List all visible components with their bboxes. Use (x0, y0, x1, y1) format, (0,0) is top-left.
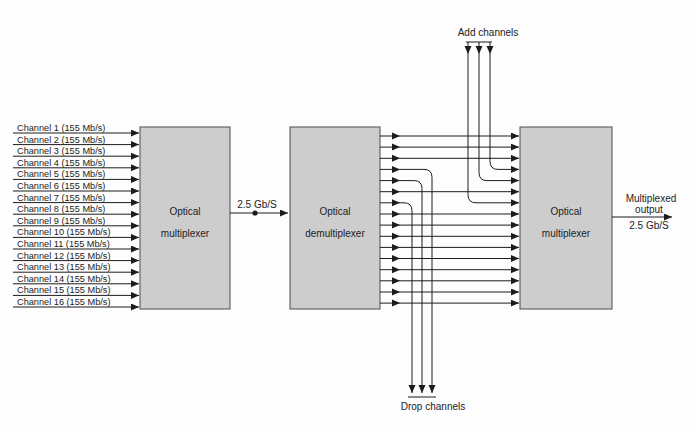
channel-inputs-group: Channel 1 (155 Mb/s)Channel 2 (155 Mb/s)… (13, 123, 139, 307)
optical-demultiplexer-box (290, 127, 380, 309)
channel-input-label-6: Channel 6 (155 Mb/s) (17, 181, 105, 191)
wavelength-rows-group (380, 42, 519, 393)
multiplexed-output-bitrate-label: 2.5 Gb/S (629, 220, 669, 231)
channel-input-label-12: Channel 12 (155 Mb/s) (17, 251, 110, 261)
demux-label-line2: demultiplexer (305, 228, 365, 239)
mid-link-dot (252, 210, 257, 215)
multiplexed-output-label-line2: output (635, 204, 663, 215)
mid-link-bitrate-label: 2.5 Gb/S (237, 199, 277, 210)
optical-multiplexer-left-box (140, 127, 230, 309)
wdm-diagram: Optical multiplexer Optical demultiplexe… (0, 0, 694, 431)
channel-input-label-10: Channel 10 (155 Mb/s) (17, 227, 110, 237)
drop-channel-line-7 (380, 203, 412, 393)
add-channel-arrow-5 (476, 46, 483, 54)
channel-input-label-13: Channel 13 (155 Mb/s) (17, 262, 110, 272)
optical-multiplexer-right-box (520, 127, 612, 309)
add-channel-line-5 (479, 42, 519, 181)
left-mux-label-line1: Optical (169, 206, 200, 217)
channel-input-label-7: Channel 7 (155 Mb/s) (17, 193, 105, 203)
channel-input-label-5: Channel 5 (155 Mb/s) (17, 169, 105, 179)
add-channel-arrow-7 (465, 46, 472, 54)
demux-label-line1: Optical (319, 206, 350, 217)
right-mux-label-line1: Optical (550, 206, 581, 217)
add-channel-line-7 (468, 42, 519, 203)
left-mux-label-line2: multiplexer (161, 228, 210, 239)
channel-input-label-3: Channel 3 (155 Mb/s) (17, 146, 105, 156)
channel-input-label-1: Channel 1 (155 Mb/s) (17, 123, 105, 133)
diagram-canvas: Optical multiplexer Optical demultiplexe… (0, 0, 694, 431)
add-channel-arrow-4 (487, 46, 494, 54)
channel-input-label-16: Channel 16 (155 Mb/s) (17, 297, 110, 307)
channel-input-label-2: Channel 2 (155 Mb/s) (17, 135, 105, 145)
multiplexed-output-label-line1: Multiplexed (626, 193, 677, 204)
drop-channels-label: Drop channels (401, 401, 465, 412)
add-channel-line-4 (490, 42, 519, 169)
channel-input-label-11: Channel 11 (155 Mb/s) (17, 239, 110, 249)
right-mux-label-line2: multiplexer (542, 228, 591, 239)
add-channels-label: Add channels (458, 27, 519, 38)
channel-input-label-8: Channel 8 (155 Mb/s) (17, 204, 105, 214)
channel-input-label-15: Channel 15 (155 Mb/s) (17, 285, 110, 295)
channel-input-label-4: Channel 4 (155 Mb/s) (17, 158, 105, 168)
channel-input-label-9: Channel 9 (155 Mb/s) (17, 216, 105, 226)
drop-channel-line-5 (380, 181, 422, 393)
channel-input-label-14: Channel 14 (155 Mb/s) (17, 274, 110, 284)
